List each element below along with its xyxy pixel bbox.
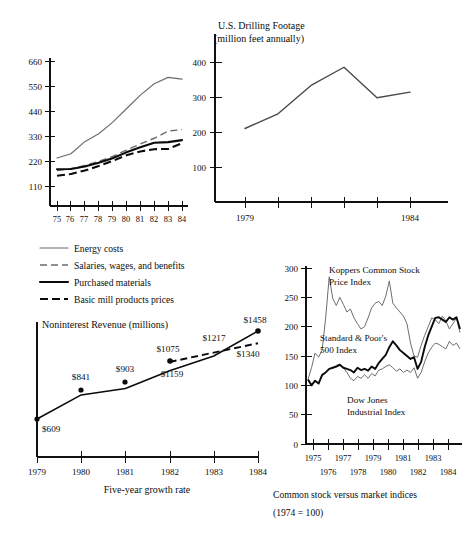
x-tick-label: 1980 bbox=[380, 468, 397, 477]
x-tick-labels: 75 76 77 78 79 80 81 82 83 84 bbox=[53, 215, 187, 224]
figure-caption: Common stock versus market indices (1974… bbox=[273, 489, 417, 519]
x-axis-label: Five-year growth rate bbox=[104, 484, 191, 495]
x-tick-label: 1983 bbox=[425, 454, 442, 463]
y-tick-label: 440 bbox=[29, 107, 43, 117]
x-tick-label: 1976 bbox=[320, 468, 337, 477]
legend-item-energy-costs: Energy costs bbox=[40, 243, 123, 254]
x-tick-label: 1979 bbox=[28, 467, 47, 477]
x-tick-label: 1982 bbox=[410, 468, 427, 477]
x-tick-label: 82 bbox=[150, 215, 158, 224]
point-label: $1458 bbox=[244, 315, 267, 325]
y-tick-label: 300 bbox=[193, 93, 207, 103]
data-point bbox=[78, 387, 83, 392]
x-tick-label: 81 bbox=[136, 215, 144, 224]
y-tick-label: 150 bbox=[285, 352, 299, 362]
legend-item-basic-mill-products-prices: Basic mill products prices bbox=[40, 294, 174, 305]
y-tick-label: 220 bbox=[29, 157, 43, 167]
chart-title: Noninterest Revenue (millions) bbox=[42, 319, 168, 331]
chart-title: U.S. Drilling Footage (million feet annu… bbox=[214, 20, 305, 45]
point-label: $1159 bbox=[161, 369, 184, 379]
y-tick-label: 0 bbox=[294, 440, 299, 450]
x-tick-label: 84 bbox=[178, 215, 187, 224]
noninterest-revenue-plot: Noninterest Revenue (millions) 1979 1980… bbox=[20, 312, 270, 502]
annotation-line1: Dow Jones bbox=[347, 395, 388, 405]
revenue-point-labels: $609 $841 $903 $1075 $1217 $1458 $1159 $… bbox=[42, 315, 267, 434]
annotation-line1: Koppers Common Stock bbox=[329, 265, 420, 275]
y-tick-label: 100 bbox=[285, 381, 299, 391]
y-ticks bbox=[210, 62, 222, 167]
chart-title-line1: U.S. Drilling Footage bbox=[218, 20, 305, 31]
y-tick-label: 50 bbox=[289, 410, 299, 420]
x-tick-labels-upper: 1975 1977 1979 1981 1983 bbox=[305, 454, 442, 463]
x-tick-label: 1984 bbox=[440, 468, 458, 477]
noninterest-revenue-chart: Noninterest Revenue (millions) 1979 1980… bbox=[20, 312, 270, 502]
x-tick-label: 1982 bbox=[161, 467, 179, 477]
annotation-dowjones: Dow Jones Industrial Index bbox=[347, 395, 406, 417]
x-tick-label: 1983 bbox=[205, 467, 224, 477]
data-point bbox=[34, 416, 39, 421]
x-tick-label: 80 bbox=[122, 215, 130, 224]
x-tick-label: 79 bbox=[108, 215, 116, 224]
legend-item-purchased-materials: Purchased materials bbox=[40, 277, 151, 288]
x-tick-label: 75 bbox=[53, 215, 61, 224]
cost-index-plot: 110 220 330 440 550 660 75 76 77 78 79 bbox=[0, 48, 200, 228]
y-tick-label: 400 bbox=[193, 58, 207, 68]
x-tick-label: 1979 bbox=[236, 213, 255, 223]
common-stock-indices-chart: 0 50 100 150 200 250 300 1975 1977 1979 … bbox=[272, 258, 473, 530]
x-tick-label: 1977 bbox=[335, 454, 352, 463]
cost-index-chart: 110 220 330 440 550 660 75 76 77 78 79 bbox=[0, 48, 200, 228]
cost-index-legend: Energy costs Salaries, wages, and benefi… bbox=[0, 238, 210, 310]
y-tick-label: 660 bbox=[29, 57, 43, 67]
annotation-koppers: Koppers Common Stock Price Index bbox=[329, 265, 420, 287]
x-tick-label: 76 bbox=[66, 215, 74, 224]
common-stock-indices-plot: 0 50 100 150 200 250 300 1975 1977 1979 … bbox=[272, 258, 473, 530]
series-drilling-footage bbox=[245, 67, 410, 128]
x-tick-label: 1984 bbox=[249, 467, 268, 477]
point-label: $903 bbox=[116, 364, 135, 374]
point-label: $841 bbox=[72, 372, 91, 382]
x-tick-labels: 1979 1980 1981 1982 1983 1984 bbox=[28, 467, 268, 477]
x-tick-labels: 1979 1984 bbox=[236, 213, 420, 223]
annotation-line2: Industrial Index bbox=[347, 407, 406, 417]
point-label: $1340 bbox=[237, 349, 260, 359]
x-tick-label: 78 bbox=[94, 215, 102, 224]
y-tick-label: 330 bbox=[29, 132, 43, 142]
drilling-footage-plot: U.S. Drilling Footage (million feet annu… bbox=[200, 12, 465, 227]
y-tick-label: 250 bbox=[285, 293, 299, 303]
point-label: $1075 bbox=[157, 344, 180, 354]
legend-label: Basic mill products prices bbox=[74, 294, 174, 305]
y-tick-label: 200 bbox=[193, 128, 207, 138]
annotation-line2: Price Index bbox=[329, 277, 371, 287]
legend-svg: Energy costs Salaries, wages, and benefi… bbox=[0, 238, 210, 310]
legend-label: Energy costs bbox=[74, 243, 123, 254]
x-tick-label: 83 bbox=[164, 215, 172, 224]
x-tick-labels-lower: 1976 1978 1980 1982 1984 bbox=[320, 468, 458, 477]
chart-title-line2: (million feet annually) bbox=[214, 33, 304, 45]
x-tick-label: 77 bbox=[80, 215, 88, 224]
series-koppers-common-stock-price-index bbox=[308, 277, 460, 380]
data-point bbox=[167, 358, 173, 364]
x-tick-label: 1984 bbox=[401, 213, 420, 223]
x-tick-label: 1980 bbox=[72, 467, 91, 477]
legend-label: Salaries, wages, and benefits bbox=[74, 260, 185, 271]
y-tick-label: 550 bbox=[29, 82, 43, 92]
y-tick-labels: 0 50 100 150 200 250 300 bbox=[285, 264, 299, 450]
point-label: $1217 bbox=[203, 333, 226, 343]
series-revenue-actual bbox=[37, 331, 258, 419]
series-purchased-materials bbox=[57, 140, 182, 169]
y-tick-label: 200 bbox=[285, 322, 299, 332]
legend-item-salaries-wages-benefits: Salaries, wages, and benefits bbox=[40, 260, 185, 271]
x-tick-label: 1975 bbox=[305, 454, 322, 463]
y-tick-labels: 110 220 330 440 550 660 bbox=[29, 57, 43, 192]
drilling-footage-chart: U.S. Drilling Footage (million feet annu… bbox=[200, 12, 465, 227]
data-point bbox=[255, 328, 261, 334]
y-tick-label: 100 bbox=[193, 163, 207, 173]
x-tick-label: 1981 bbox=[395, 454, 412, 463]
caption-line2: (1974 = 100) bbox=[273, 507, 323, 519]
x-tick-label: 1981 bbox=[116, 467, 134, 477]
annotation-sp500: Standard & Poor's 500 Index bbox=[320, 333, 387, 355]
series-energy-costs bbox=[57, 77, 182, 158]
caption-line1: Common stock versus market indices bbox=[273, 489, 417, 500]
series-basic-mill-products-prices bbox=[57, 143, 182, 176]
data-point bbox=[122, 379, 127, 384]
